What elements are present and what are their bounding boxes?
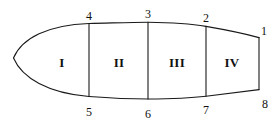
outline-bottom-curve [14,58,260,99]
vertex-label-4: 4 [86,10,92,22]
segment-label-ii: II [114,56,125,69]
segment-label-iv: IV [225,56,240,69]
vertex-label-1: 1 [261,25,267,37]
diagram-canvas: I II III IV 1 2 3 4 5 6 7 8 [0,0,275,125]
segment-label-i: I [59,56,64,69]
vertex-label-7: 7 [203,104,209,116]
vertex-label-5: 5 [86,106,92,118]
outline-top-curve [14,22,260,58]
vertex-label-2: 2 [203,12,209,24]
vertex-label-8: 8 [262,98,268,110]
vertex-label-3: 3 [145,8,151,20]
vertex-label-6: 6 [145,108,151,120]
segment-label-iii: III [169,56,185,69]
